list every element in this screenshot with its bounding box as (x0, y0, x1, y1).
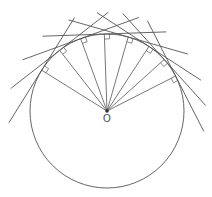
center-label-o: O (103, 113, 111, 124)
radius-line (107, 76, 176, 111)
right-angle-marker (104, 34, 109, 39)
radius-line (107, 37, 128, 111)
tangent-line (11, 12, 109, 88)
radius-line (60, 50, 107, 111)
right-angle-marker (146, 49, 153, 53)
tangent-line (123, 13, 206, 105)
radius-line (42, 70, 107, 111)
radius-line (81, 39, 107, 111)
right-angle-marker (161, 63, 168, 67)
circle-tangent-diagram: O (0, 0, 212, 197)
tangent-line (9, 18, 75, 123)
geometry-group (9, 12, 206, 188)
right-angle-marker (63, 47, 67, 54)
radius-line (104, 34, 107, 111)
